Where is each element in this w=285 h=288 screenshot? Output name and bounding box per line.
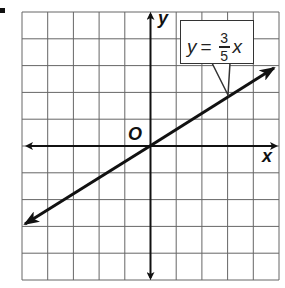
y-axis-label: y [158, 8, 168, 29]
line-y-3-5-x [150, 68, 274, 146]
origin-label: O [128, 124, 142, 145]
equation-y: y [187, 36, 197, 58]
numerator: 3 [220, 31, 228, 45]
equation-callout: y = 3 5 x [180, 20, 254, 64]
denominator: 5 [220, 49, 228, 63]
equals-sign: = [201, 36, 212, 58]
fraction-3-5: 3 5 [219, 31, 230, 63]
line-y-3-5-x [25, 146, 150, 224]
equation-x: x [233, 36, 243, 58]
callout-pointer [212, 63, 230, 95]
x-axis-label: x [262, 146, 272, 167]
